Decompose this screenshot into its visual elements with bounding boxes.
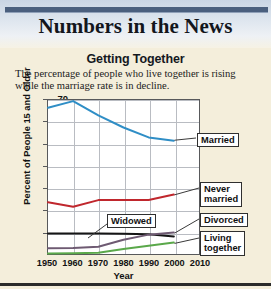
callout-living-together: Living together	[200, 231, 245, 256]
news-chart-figure: Numbers in the News Getting Together The…	[0, 0, 271, 289]
callout-married: Married	[197, 133, 239, 147]
leader-line	[175, 238, 200, 243]
leader-line	[175, 138, 197, 140]
leader-line	[175, 219, 200, 233]
callout-never-married: Never married	[200, 182, 242, 207]
callout-divorced: Divorced	[200, 213, 248, 227]
leader-line	[175, 188, 200, 195]
callout-widowed: Widowed	[107, 214, 156, 228]
leader-line	[88, 224, 107, 238]
